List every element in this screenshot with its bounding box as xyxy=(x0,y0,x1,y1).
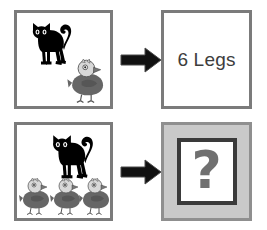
diagram-row-question: ? xyxy=(0,117,267,229)
cat-icon xyxy=(47,131,101,181)
bird-icon xyxy=(67,59,107,103)
arrow-right-icon xyxy=(120,46,162,74)
answer-panel: 6 Legs xyxy=(161,10,252,109)
answer-text: 6 Legs xyxy=(177,49,235,71)
unknown-answer-panel: ? xyxy=(161,122,252,221)
scene-panel-question xyxy=(14,122,113,221)
arrow-right-icon xyxy=(120,158,162,186)
puzzle-diagram: 6 Legs xyxy=(0,0,267,230)
question-mark-icon: ? xyxy=(191,144,221,196)
bird-icon xyxy=(19,177,52,216)
bird-icon xyxy=(79,177,112,216)
diagram-row-example: 6 Legs xyxy=(0,5,267,117)
unknown-inner-frame: ? xyxy=(177,138,237,205)
scene-panel-example xyxy=(14,10,113,109)
